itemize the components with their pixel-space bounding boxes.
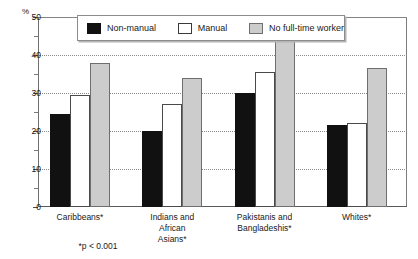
bar-chart: % 01020304050 Non-manual Manual No full-… bbox=[0, 0, 418, 259]
legend-item-non-manual: Non-manual bbox=[87, 23, 156, 34]
x-axis-category-label: Whites* bbox=[302, 212, 412, 223]
bar-nonmanual bbox=[327, 125, 347, 207]
x-axis-category-label-line: Bangladeshis* bbox=[210, 223, 320, 234]
bars-layer bbox=[38, 17, 407, 207]
legend-label-no-full-time-worker: No full-time worker bbox=[269, 24, 344, 33]
legend-label-manual: Manual bbox=[198, 24, 228, 33]
bar-manual bbox=[162, 104, 182, 207]
bar-manual bbox=[255, 72, 275, 207]
bar-manual bbox=[70, 95, 90, 207]
bar-nofulltime bbox=[182, 78, 202, 207]
x-axis-category-label-line: Whites* bbox=[302, 212, 412, 223]
bar-nofulltime bbox=[367, 68, 387, 207]
bar-nonmanual bbox=[235, 93, 255, 207]
bar-manual bbox=[347, 123, 367, 207]
chart-legend: Non-manual Manual No full-time worker bbox=[77, 15, 345, 41]
bar-nonmanual bbox=[50, 114, 70, 207]
legend-item-manual: Manual bbox=[178, 23, 228, 34]
chart-footnote: *p < 0.001 bbox=[43, 241, 153, 251]
legend-swatch-icon-no-full-time-worker bbox=[249, 23, 263, 34]
legend-label-non-manual: Non-manual bbox=[107, 24, 156, 33]
bar-nofulltime bbox=[90, 63, 110, 207]
bar-nonmanual bbox=[142, 131, 162, 207]
bar-nofulltime bbox=[275, 40, 295, 207]
legend-swatch-icon-manual bbox=[178, 23, 192, 34]
legend-swatch-icon-non-manual bbox=[87, 23, 101, 34]
legend-item-no-full-time-worker: No full-time worker bbox=[249, 23, 344, 34]
